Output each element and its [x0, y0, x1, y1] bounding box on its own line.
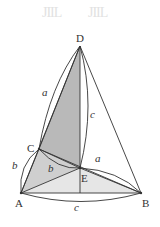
arc-AB-c: [21, 193, 141, 202]
edge-label-DE: c: [90, 108, 95, 120]
vertex-label-E: E: [81, 172, 88, 184]
vertex-label-D: D: [76, 32, 84, 44]
watermark-left: JIIL: [42, 5, 62, 20]
edge-label-CA: b: [12, 159, 18, 171]
face-DCE-shaded: [39, 46, 80, 168]
edge-label-EB: a: [95, 152, 101, 164]
vertex-dot-B: [140, 192, 142, 194]
edge-label-AB: c: [74, 201, 79, 213]
edge-label-DC: a: [42, 86, 48, 98]
arc-DE-c: [80, 46, 88, 168]
watermark-right: JIIL: [88, 5, 108, 20]
vertex-dot-C: [38, 148, 40, 150]
edge-label-CE: b: [48, 162, 54, 174]
vertex-label-C: C: [27, 142, 34, 154]
tetrahedron-diagram: JIIL JIIL D C E A B a c b b a c: [0, 0, 160, 227]
vertex-dot-E: [79, 167, 81, 169]
vertex-label-B: B: [142, 197, 149, 209]
vertex-dot-A: [20, 192, 22, 194]
vertex-label-A: A: [15, 197, 23, 209]
